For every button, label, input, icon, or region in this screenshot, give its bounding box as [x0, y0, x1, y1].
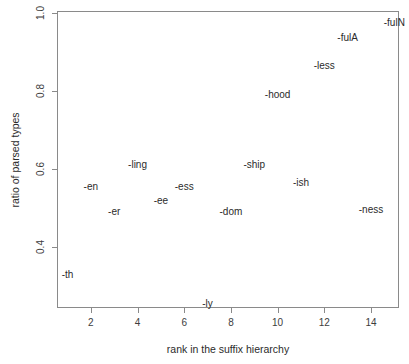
- y-tick-mark: [52, 13, 57, 14]
- data-point-label: -er: [108, 207, 120, 217]
- y-tick-mark: [52, 247, 57, 248]
- x-tick-label: 8: [228, 318, 234, 328]
- data-point-label: -dom: [220, 207, 243, 217]
- data-point-label: -ly: [202, 299, 213, 309]
- scatter-plot: 2468101214 0.40.60.81.0 -th-en-er-ling-e…: [0, 0, 409, 364]
- data-point-label: -ness: [359, 205, 383, 215]
- data-point-label: -ess: [175, 182, 194, 192]
- y-tick-label: 0.6: [36, 162, 46, 176]
- x-tick-label: 12: [319, 318, 330, 328]
- x-tick-label: 14: [365, 318, 376, 328]
- y-tick-label: 1.0: [36, 6, 46, 20]
- y-tick-mark: [52, 91, 57, 92]
- data-point-label: -ship: [243, 160, 265, 170]
- x-tick-label: 6: [181, 318, 187, 328]
- x-tick-mark: [138, 308, 139, 313]
- data-point-label: -th: [62, 270, 74, 280]
- data-point-label: -hood: [265, 90, 291, 100]
- data-point-label: -ling: [128, 160, 147, 170]
- plot-panel-border: [57, 11, 399, 308]
- data-point-label: -fulN: [384, 18, 405, 28]
- x-tick-label: 10: [272, 318, 283, 328]
- x-tick-mark: [91, 308, 92, 313]
- x-tick-mark: [278, 308, 279, 313]
- data-point-label: -en: [84, 182, 98, 192]
- x-tick-mark: [184, 308, 185, 313]
- y-tick-label: 0.8: [36, 84, 46, 98]
- x-axis-title: rank in the suffix hierarchy: [167, 344, 289, 355]
- x-tick-label: 2: [88, 318, 94, 328]
- data-point-label: -ee: [154, 196, 168, 206]
- x-tick-mark: [371, 308, 372, 313]
- x-tick-mark: [231, 308, 232, 313]
- y-axis-title: ratio of parsed types: [10, 112, 21, 207]
- y-tick-mark: [52, 169, 57, 170]
- data-point-label: -less: [314, 61, 335, 71]
- data-point-label: -ish: [293, 178, 309, 188]
- x-tick-mark: [324, 308, 325, 313]
- y-tick-label: 0.4: [36, 240, 46, 254]
- data-point-label: -fulA: [337, 33, 358, 43]
- x-tick-label: 4: [135, 318, 141, 328]
